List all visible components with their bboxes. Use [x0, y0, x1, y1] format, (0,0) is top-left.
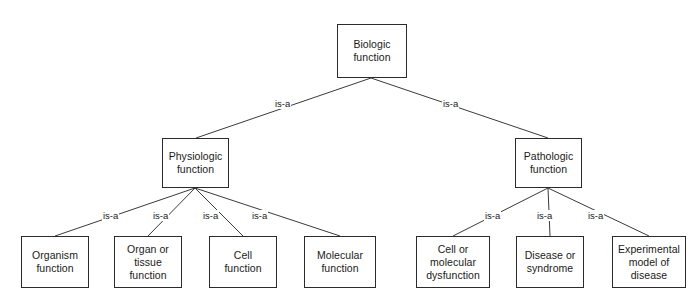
node-organ[interactable]: Organ or tissue function — [114, 236, 182, 288]
node-label-cell: Cell function — [221, 249, 264, 275]
node-label-organism: Organism function — [29, 249, 81, 275]
edge-biologic-to-pathologic — [371, 78, 548, 138]
edge-label-physiologic-to-organ: is-a — [152, 210, 169, 221]
node-label-pathologic: Pathologic function — [521, 150, 577, 176]
edge-label-biologic-to-physiologic: is-a — [274, 98, 291, 109]
node-molecular[interactable]: Molecular function — [304, 236, 376, 288]
node-organism[interactable]: Organism function — [21, 236, 89, 288]
node-cell[interactable]: Cell function — [209, 236, 277, 288]
node-experimental[interactable]: Experimental model of disease — [612, 236, 686, 288]
node-label-molecular: Molecular function — [314, 249, 366, 275]
node-label-dysfunction: Cell or molecular dysfunction — [423, 243, 483, 282]
edge-label-pathologic-to-experimental: is-a — [587, 210, 604, 221]
edge-label-physiologic-to-organism: is-a — [102, 210, 119, 221]
node-dysfunction[interactable]: Cell or molecular dysfunction — [416, 236, 490, 288]
node-label-biologic: Biologic function — [350, 38, 393, 64]
edge-label-pathologic-to-dysfunction: is-a — [484, 210, 501, 221]
node-physiologic[interactable]: Physiologic function — [162, 138, 229, 188]
node-pathologic[interactable]: Pathologic function — [515, 138, 582, 188]
edge-label-physiologic-to-molecular: is-a — [251, 210, 268, 221]
edge-physiologic-to-organism — [55, 188, 195, 236]
edge-label-biologic-to-pathologic: is-a — [442, 98, 459, 109]
edge-label-pathologic-to-disease: is-a — [536, 210, 553, 221]
node-label-experimental: Experimental model of disease — [615, 243, 683, 282]
node-biologic[interactable]: Biologic function — [337, 24, 407, 78]
edge-label-physiologic-to-cell: is-a — [202, 210, 219, 221]
diagram-canvas: is-ais-ais-ais-ais-ais-ais-ais-ais-aBiol… — [0, 0, 699, 304]
node-label-organ: Organ or tissue function — [124, 243, 172, 282]
node-disease[interactable]: Disease or syndrome — [516, 236, 584, 288]
node-label-disease: Disease or syndrome — [522, 249, 579, 275]
node-label-physiologic: Physiologic function — [166, 150, 226, 176]
